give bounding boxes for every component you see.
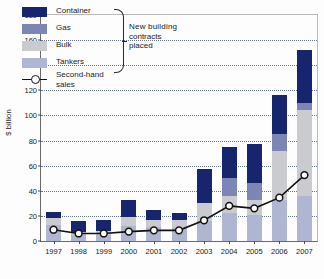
brace-line-3: placed	[129, 41, 199, 51]
legend-label-tankers: Tankers	[56, 57, 84, 67]
bar-2004[interactable]	[222, 147, 237, 241]
brace-line-1: New building	[129, 22, 199, 32]
bar-2001[interactable]	[146, 210, 161, 241]
bar-segment-gas-2006	[272, 134, 287, 150]
x-tick-label-2001: 2001	[146, 247, 163, 256]
brace-annotation: New building contracts placed	[129, 22, 199, 51]
x-tick-mark	[54, 241, 55, 244]
y-tick-label: 100	[24, 111, 37, 120]
y-tick-label: 0	[33, 237, 37, 246]
legend-swatch-container-icon	[22, 7, 47, 17]
legend-label-second-hand-sales: Second-hand sales	[56, 70, 144, 89]
legend: Container Gas Bulk Tankers Second-hand s…	[22, 4, 222, 92]
x-tick-label-2004: 2004	[221, 247, 238, 256]
brace-line-2: contracts	[129, 32, 199, 42]
bar-1997[interactable]	[46, 212, 61, 241]
bar-segment-tankers-2004	[222, 213, 237, 241]
bar-segment-tankers-1997	[46, 225, 61, 241]
x-tick-mark	[104, 241, 105, 244]
bar-segment-container-2006	[272, 95, 287, 134]
bar-segment-tankers-2007	[297, 196, 312, 241]
x-tick-mark	[229, 241, 230, 244]
bar-segment-bulk-2003	[197, 203, 212, 221]
bar-segment-container-2005	[247, 144, 262, 183]
bar-segment-bulk-2000	[121, 217, 136, 226]
bar-segment-container-2003	[197, 169, 212, 203]
bar-segment-tankers-2003	[197, 221, 212, 241]
x-tick-label-2000: 2000	[120, 247, 137, 256]
x-tick-label-1997: 1997	[45, 247, 62, 256]
bar-segment-container-2004	[222, 147, 237, 178]
legend-item-second-hand-sales[interactable]: Second-hand sales	[22, 72, 222, 92]
x-tick-mark	[204, 241, 205, 244]
bar-segment-gas-2007	[297, 103, 312, 111]
bar-1998[interactable]	[71, 221, 86, 241]
x-tick-label-2007: 2007	[296, 247, 313, 256]
bar-segment-bulk-2001	[146, 220, 161, 228]
legend-swatch-gas-icon	[22, 24, 47, 34]
x-tick-label-1999: 1999	[95, 247, 112, 256]
bar-segment-bulk-2004	[222, 196, 237, 214]
y-tick-label: 40	[29, 186, 37, 195]
bar-segment-tankers-2006	[272, 200, 287, 241]
bar-segment-container-1998	[71, 221, 86, 232]
bar-1999[interactable]	[96, 220, 111, 241]
bar-segment-bulk-1997	[46, 218, 61, 224]
bar-segment-container-2007	[297, 50, 312, 103]
x-tick-mark	[79, 241, 80, 244]
bar-segment-container-1999	[96, 220, 111, 231]
y-axis-title: $ billion	[4, 91, 13, 155]
bar-2005[interactable]	[247, 144, 262, 241]
legend-swatch-bulk-icon	[22, 41, 47, 51]
bar-segment-gas-2004	[222, 178, 237, 196]
y-tick-label: 60	[29, 161, 37, 170]
x-tick-mark	[179, 241, 180, 244]
bar-2000[interactable]	[121, 200, 136, 241]
legend-label-gas: Gas	[56, 23, 71, 33]
legend-label-line1: Second-hand	[56, 70, 104, 79]
x-tick-label-2005: 2005	[246, 247, 263, 256]
x-tick-label-2006: 2006	[271, 247, 288, 256]
bar-segment-tankers-2000	[121, 226, 136, 241]
bar-segment-bulk-1999	[96, 231, 111, 235]
legend-label-line2: sales	[56, 80, 75, 89]
bar-segment-container-1997	[46, 212, 61, 218]
bar-segment-tankers-2002	[172, 228, 187, 241]
x-tick-mark	[304, 241, 305, 244]
bar-2007[interactable]	[297, 50, 312, 241]
legend-marker-circle-icon	[31, 75, 40, 84]
bar-segment-container-2002	[172, 213, 187, 219]
figure-shipping-contracts: $ billion 020406080100120140160180 19971…	[0, 0, 324, 279]
x-tick-mark	[254, 241, 255, 244]
bar-segment-bulk-2006	[272, 151, 287, 200]
x-tick-label-1998: 1998	[70, 247, 87, 256]
bar-2002[interactable]	[172, 213, 187, 241]
x-tick-mark	[129, 241, 130, 244]
x-tick-mark	[279, 241, 280, 244]
legend-swatch-tankers-icon	[22, 58, 47, 68]
x-tick-mark	[154, 241, 155, 244]
bar-2006[interactable]	[272, 95, 287, 241]
bar-segment-container-2000	[121, 200, 136, 218]
x-tick-label-2002: 2002	[171, 247, 188, 256]
bar-segment-tankers-2005	[247, 215, 262, 241]
y-tick-label: 80	[29, 136, 37, 145]
bar-segment-bulk-1998	[71, 232, 86, 235]
legend-label-bulk: Bulk	[56, 40, 72, 50]
bar-segment-bulk-2002	[172, 220, 187, 229]
bar-segment-bulk-2007	[297, 110, 312, 195]
bar-segment-tankers-2001	[146, 227, 161, 241]
legend-label-container: Container	[56, 6, 91, 16]
bar-segment-gas-2005	[247, 183, 262, 199]
bar-segment-container-2001	[146, 210, 161, 220]
x-tick-label-2003: 2003	[196, 247, 213, 256]
bar-segment-bulk-2005	[247, 200, 262, 215]
brace-icon	[114, 9, 124, 73]
y-tick-label: 20	[29, 211, 37, 220]
bar-2003[interactable]	[197, 169, 212, 241]
